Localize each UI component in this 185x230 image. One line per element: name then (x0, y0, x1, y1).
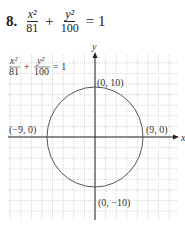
y-axis-label: y (91, 41, 97, 52)
svg-text:= 1: = 1 (53, 61, 66, 72)
vertex-label-right: (9, 0) (146, 124, 168, 136)
svg-text:81: 81 (9, 66, 19, 77)
y-axis-arrow-icon (93, 52, 98, 58)
ellipse-graph: x y x² 81 + y² 100 = 1 (0, 10) (0, −10) … (0, 0, 185, 230)
vertex-label-left: (−9, 0) (9, 124, 36, 136)
svg-text:y²: y² (36, 55, 45, 66)
x-axis-label: x (180, 132, 185, 143)
svg-text:+: + (24, 61, 30, 72)
x-axis-arrow-icon (173, 135, 179, 140)
svg-text:x²: x² (9, 55, 18, 66)
svg-text:100: 100 (34, 66, 49, 77)
vertex-label-top: (0, 10) (97, 77, 124, 89)
legend-equation: x² 81 + y² 100 = 1 (9, 55, 66, 77)
vertex-label-bottom: (0, −10) (98, 197, 130, 209)
